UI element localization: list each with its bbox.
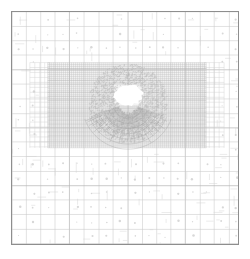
radial-ray (91, 107, 119, 117)
coarse-cell-marker (134, 192, 136, 194)
radial-ray (126, 115, 127, 130)
coarse-cell-marker (236, 91, 237, 92)
coarse-cell-marker (235, 221, 237, 223)
coarse-cell-marker (32, 48, 33, 49)
coarse-cell-marker (46, 47, 48, 49)
coarse-cell-marker (32, 120, 33, 121)
central-void-svg (12, 12, 238, 244)
coarse-cell-marker (18, 48, 20, 50)
coarse-cell-marker (164, 18, 166, 20)
coarse-cell-marker (48, 192, 50, 194)
coarse-cell-marker (206, 191, 207, 192)
radial-ray (138, 110, 165, 129)
radial-arc (104, 112, 152, 129)
coarse-cell-marker (135, 47, 137, 49)
radial-ray (138, 107, 163, 116)
radial-ray (129, 115, 130, 132)
coarse-cell-marker (18, 235, 19, 236)
coarse-cell-marker (77, 17, 79, 19)
transition-mesh-svg (12, 12, 238, 244)
coarse-cell-marker (33, 61, 34, 62)
coarse-cell-marker (235, 149, 237, 151)
coarse-cell-marker (221, 61, 223, 63)
coarse-cell-marker (222, 33, 224, 35)
coarse-cell-marker (235, 18, 237, 20)
radial-ray (133, 112, 150, 142)
radial-ray (131, 113, 137, 137)
central-void-group (113, 85, 144, 106)
radial-ray (117, 113, 125, 138)
coarse-cell-marker (62, 162, 64, 164)
coarse-cell-marker (17, 178, 19, 180)
coarse-cell-marker (177, 193, 179, 195)
radial-fan-layer (12, 12, 238, 244)
coarse-cell-marker (105, 177, 107, 179)
radial-ray (137, 109, 160, 124)
coarse-cell-marker (235, 134, 237, 136)
radial-arc (99, 114, 156, 134)
radial-ray (138, 108, 158, 119)
radial-ray (137, 107, 167, 121)
refined-band-tint-layer (12, 12, 238, 244)
radial-ray (92, 109, 120, 127)
coarse-cell-marker (106, 222, 108, 224)
coarse-cell-marker (236, 33, 237, 34)
radial-ray (106, 113, 121, 132)
coarse-cell-marker (18, 148, 19, 149)
coarse-cell-marker (162, 163, 164, 165)
coarse-cell-marker (90, 206, 92, 208)
radial-ray (128, 114, 129, 137)
central-void-layer (12, 12, 238, 244)
coarse-cell-marker (235, 235, 237, 237)
coarse-cell-marker (76, 221, 77, 222)
central-void-shape (113, 85, 144, 106)
coarse-cell-marker (47, 19, 49, 21)
coarse-cell-marker (106, 47, 108, 49)
coarse-cell-marker (220, 121, 221, 122)
coarse-cell-marker (105, 207, 106, 208)
coarse-cell-marker (32, 104, 34, 106)
coarse-cell-marker (177, 162, 179, 164)
radial-ray (136, 109, 156, 125)
radial-ray (134, 110, 147, 124)
coarse-cell-marker (119, 220, 121, 222)
coarse-cell-marker (192, 221, 193, 222)
radial-ray (103, 108, 119, 116)
coarse-cell-marker (33, 90, 35, 92)
radial-arc (94, 115, 161, 138)
radial-ray (131, 113, 139, 138)
coarse-cell-marker (177, 178, 179, 180)
radial-ray (94, 110, 120, 132)
coarse-cell-marker (76, 163, 77, 164)
coarse-cell-marker (63, 236, 65, 238)
radial-ray (130, 113, 135, 143)
coarse-cell-marker (192, 234, 195, 237)
radial-arc (85, 119, 171, 149)
coarse-mesh-group (12, 12, 238, 244)
coarse-cell-marker (90, 177, 93, 180)
radial-ray (127, 114, 128, 129)
coarse-cell-marker (19, 164, 21, 166)
transition-mesh-layer (12, 12, 238, 244)
coarse-cell-marker (19, 205, 22, 208)
coarse-cell-marker (105, 235, 107, 237)
coarse-cell-marker (163, 34, 164, 35)
coarse-cell-marker (91, 163, 92, 164)
coarse-cell-marker (192, 191, 194, 193)
radial-ray (133, 111, 146, 131)
radial-ray (137, 109, 152, 118)
radial-fan-group (85, 107, 171, 150)
coarse-cell-marker (207, 46, 209, 48)
radial-ray (99, 109, 121, 126)
coarse-cell-marker (236, 106, 238, 108)
coarse-cell-marker (178, 17, 180, 19)
coarse-cell-marker (121, 177, 122, 178)
fine-mesh-svg (12, 12, 238, 244)
radial-ray (103, 111, 121, 133)
radial-ray (133, 113, 143, 132)
coarse-cell-marker (106, 191, 107, 192)
coarse-cell-marker (220, 164, 221, 165)
coarse-cell-marker (236, 176, 238, 179)
coarse-cell-marker (62, 48, 64, 50)
coarse-cell-marker (17, 33, 19, 35)
